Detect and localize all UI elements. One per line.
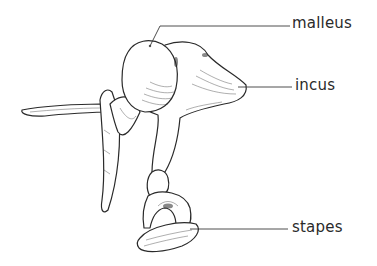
ossicles-diagram: malleus incus stapes [0,0,377,266]
label-incus: incus [295,78,335,93]
label-stapes: stapes [292,220,343,235]
malleus-head [122,41,177,112]
label-malleus: malleus [292,16,352,31]
malleus-anterior-process [22,104,112,116]
